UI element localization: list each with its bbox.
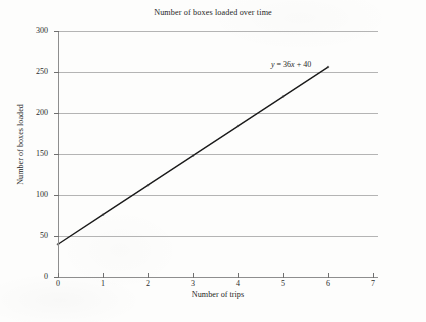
data-point-5	[282, 95, 285, 98]
y-tick-150	[54, 154, 59, 155]
x-tick-label-0: 0	[48, 279, 68, 288]
x-tick-5	[283, 273, 284, 278]
equation-tail: + 40	[295, 60, 312, 69]
x-tick-6	[328, 273, 329, 278]
data-point-4	[237, 125, 240, 128]
x-tick-2	[148, 273, 149, 278]
line-equation-annotation: y = 36x + 40	[271, 60, 311, 69]
x-tick-label-3: 3	[183, 279, 203, 288]
data-point-2	[147, 184, 150, 187]
x-axis-title: Number of trips	[58, 290, 378, 299]
chart-figure: Number of boxes loaded over time 0501001…	[0, 0, 426, 322]
x-tick-label-4: 4	[228, 279, 248, 288]
data-point-1	[102, 213, 105, 216]
y-axis-title: Number of boxes loaded	[16, 70, 25, 220]
y-tick-300	[54, 31, 59, 32]
x-tick-label-7: 7	[363, 279, 383, 288]
data-point-3	[192, 154, 195, 157]
y-tick-200	[54, 113, 59, 114]
y-tick-250	[54, 72, 59, 73]
y-tick-100	[54, 195, 59, 196]
x-tick-0	[58, 273, 59, 278]
x-tick-1	[103, 273, 104, 278]
x-tick-label-6: 6	[318, 279, 338, 288]
data-point-6	[327, 66, 330, 69]
chart-title: Number of boxes loaded over time	[0, 8, 426, 17]
x-tick-label-2: 2	[138, 279, 158, 288]
y-tick-50	[54, 236, 59, 237]
y-tick-label-0: 0	[16, 272, 48, 281]
x-tick-4	[238, 273, 239, 278]
y-tick-label-50: 50	[16, 231, 48, 240]
x-tick-3	[193, 273, 194, 278]
gridline-y-0	[58, 277, 378, 278]
x-tick-label-1: 1	[93, 279, 113, 288]
x-tick-7	[373, 273, 374, 278]
plot-area	[58, 31, 378, 277]
data-line-series	[58, 31, 378, 277]
y-tick-label-300: 300	[16, 26, 48, 35]
x-tick-label-5: 5	[273, 279, 293, 288]
equation-mid: = 36	[275, 60, 292, 69]
